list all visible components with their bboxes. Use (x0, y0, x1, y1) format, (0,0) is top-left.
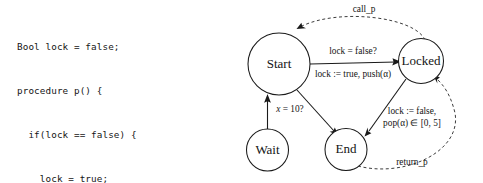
node-start-label: Start (267, 56, 292, 71)
state-machine-diagram: lock = false? lock := true, push(α) lock… (0, 0, 483, 183)
edge-label-locked-end-action-line2: pop(α) ∈ [0, 5] (383, 118, 441, 129)
edge-start-to-locked-line (310, 62, 396, 64)
figure-root: Bool lock = false; procedure p() { if(lo… (0, 0, 483, 183)
edge-start-to-locked (310, 58, 401, 65)
edge-call-p-curve (302, 16, 425, 40)
node-start[interactable]: Start (248, 33, 310, 95)
edge-label-return-p: return_p (396, 157, 428, 167)
edge-label-start-locked-action: lock := true, push(α) (315, 69, 391, 80)
node-end-label: End (336, 141, 357, 156)
node-end[interactable]: End (325, 129, 367, 171)
node-wait-label: Wait (255, 142, 280, 157)
edge-label-start-locked-guard: lock = false? (329, 46, 377, 56)
edge-wait-to-start (264, 94, 271, 129)
edge-label-wait-start-guard-rest: = 10? (280, 104, 303, 114)
arrow-head-icon (297, 23, 307, 29)
edge-label-call-p: call_p (353, 4, 376, 14)
edge-call-p (297, 16, 426, 40)
node-wait[interactable]: Wait (247, 129, 289, 171)
node-locked[interactable]: Locked (399, 39, 444, 84)
edge-label-wait-start-guard: x = 10? (275, 104, 303, 114)
node-locked-label: Locked (402, 53, 441, 68)
edge-label-locked-end-action-line1: lock := false, (388, 106, 436, 116)
